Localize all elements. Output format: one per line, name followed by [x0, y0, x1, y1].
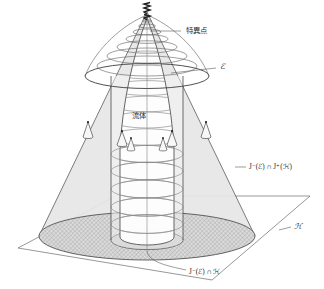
spacetime-diagram: 特異点 流体 ℰ J⁻(ℰ) ∩ J⁺(ℋ) ℋ J⁻(ℰ) ∩ ℋ: [0, 0, 324, 289]
label-intersection: J⁻(ℰ) ∩ ℋ: [189, 268, 220, 276]
label-scri: ℰ: [220, 62, 226, 71]
leader-horizon-plane: [279, 227, 291, 230]
label-fluid: 流体: [132, 111, 147, 120]
label-singularity: 特異点: [186, 26, 208, 35]
leader-scri: [171, 68, 216, 73]
label-causal-region: J⁻(ℰ) ∩ J⁺(ℋ): [249, 163, 293, 171]
label-horizon-plane: ℋ: [294, 222, 303, 231]
